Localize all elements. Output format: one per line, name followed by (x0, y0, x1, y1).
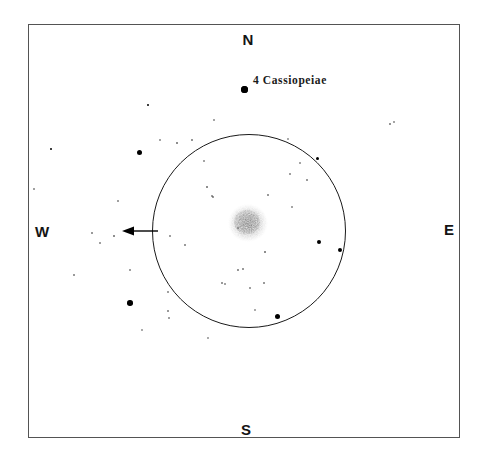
star-point (211, 195, 213, 197)
cardinal-label-north: N (228, 32, 268, 47)
star-point (207, 337, 208, 338)
star-point (267, 194, 269, 196)
star-point (389, 123, 391, 125)
cardinal-label-east: E (429, 222, 469, 237)
star-point (287, 138, 288, 139)
star-point (184, 244, 186, 246)
star-point (275, 314, 280, 319)
cardinal-label-south: S (226, 422, 266, 437)
star-point (113, 235, 115, 237)
star-point (33, 188, 35, 190)
star-point (127, 300, 133, 306)
star-point (299, 162, 300, 163)
star-point (129, 269, 131, 271)
star-point (306, 179, 308, 181)
star-point (73, 274, 75, 276)
star-point (291, 206, 292, 207)
star-point (137, 150, 142, 155)
star-point (167, 291, 169, 293)
star-point (242, 268, 244, 270)
star-point (213, 119, 214, 120)
star-point (316, 157, 319, 160)
star-point (191, 139, 193, 141)
star-point (263, 282, 265, 284)
star-point (169, 235, 171, 237)
star-point (224, 283, 225, 284)
star-chart-figure: N S W E (0, 0, 487, 474)
star-point (168, 317, 170, 319)
star-point (91, 232, 93, 234)
diffuse-comet-object (222, 198, 274, 250)
cardinal-label-west: W (22, 224, 62, 239)
star-point (393, 121, 394, 122)
star-point (289, 173, 291, 175)
motion-direction-arrow (120, 221, 158, 241)
star-point (167, 310, 169, 312)
star-point (159, 139, 160, 140)
star-point (176, 142, 178, 144)
star-point (237, 269, 239, 271)
star-point (117, 200, 119, 202)
star-point (203, 160, 204, 161)
star-point (99, 242, 101, 244)
labeled-star-point (241, 86, 248, 93)
star-point (264, 251, 266, 253)
star-point (254, 309, 255, 310)
star-point (338, 248, 342, 252)
object-name-label: 4 Cassiopeiae (253, 74, 327, 86)
star-point (206, 186, 208, 188)
star-point (249, 287, 251, 289)
star-point (221, 282, 223, 284)
star-point (141, 329, 142, 330)
